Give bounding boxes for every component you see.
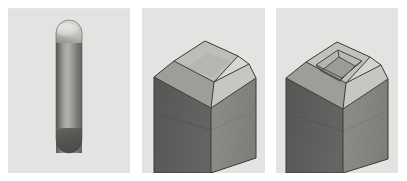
panel-chamfered-box: Box with chamfered top edges [142,8,265,173]
panel-shelled-box: Hollow shelled box with open top [276,8,398,173]
shelled-box-illustration [276,8,398,173]
figure-root: Cylinder with rounded ends [0,0,407,181]
panel-cylinder: Cylinder with rounded ends [8,8,130,173]
cylinder-illustration [8,8,130,173]
chamfered-box-illustration [142,8,265,173]
